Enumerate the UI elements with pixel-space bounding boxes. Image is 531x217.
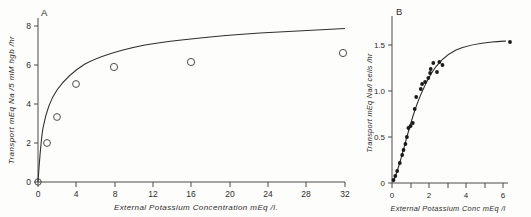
panel-a-xtick-8: 8 — [113, 189, 118, 199]
panel-b-point-16 — [426, 76, 430, 80]
panel-a-y-ticklabels: 0 2 4 6 8 — [26, 21, 31, 187]
panel-a-data-points — [35, 49, 347, 185]
panel-b-point-10 — [411, 121, 415, 125]
panel-b-point-23 — [508, 40, 512, 44]
panel-b-point-19 — [431, 61, 435, 65]
panel-b-point-7 — [405, 135, 409, 139]
panel-a-label: A — [41, 7, 48, 18]
panel-b-point-11 — [413, 107, 417, 111]
panel-b-point-13 — [419, 87, 423, 91]
panel-b-data-points — [392, 40, 512, 182]
panel-a-ytick-0: 0 — [26, 177, 31, 187]
panel-a-point-6 — [339, 49, 346, 56]
panel-b-point-18 — [429, 67, 433, 71]
panel-b-point-17 — [428, 71, 432, 75]
panel-a-ytick-2: 2 — [26, 138, 31, 148]
panel-b: 0 0.5 1.0 1.5 0 2 4 6 — [360, 0, 531, 217]
panel-a-plot: 0 2 4 6 8 0 4 8 12 — [0, 0, 360, 217]
panel-a-x-ticks — [38, 182, 345, 187]
panel-a-y-axis-title: Transport mEq Na /5 mM hgb /hr — [7, 36, 16, 164]
panel-a-y-ticks — [34, 26, 38, 182]
panel-b-fit-curve — [393, 41, 506, 182]
panel-b-xtick-6: 6 — [501, 191, 506, 200]
panel-a-x-axis-title: External Potassium Concentration mEq /l. — [114, 203, 278, 212]
panel-a-point-1 — [44, 140, 51, 147]
panel-b-label: B — [396, 6, 403, 17]
panel-b-point-4 — [400, 153, 404, 157]
panel-a-fit-curve — [38, 29, 345, 183]
panel-b-ytick-10: 1.0 — [374, 87, 386, 96]
panel-b-ytick-0: 0 — [381, 179, 386, 188]
panel-b-point-2 — [395, 169, 399, 173]
panel-a-xtick-12: 12 — [148, 189, 158, 199]
panel-b-point-0 — [392, 178, 396, 182]
panel-a-xtick-0: 0 — [36, 189, 41, 199]
panel-b-point-3 — [398, 161, 402, 165]
panel-b-y-ticks — [388, 45, 392, 183]
panel-a-x-ticklabels: 0 4 8 12 16 20 24 28 32 — [36, 189, 350, 199]
panel-b-x-axis-title: External Potassium Conc mEq /l — [391, 204, 506, 213]
panel-b-point-22 — [441, 63, 445, 67]
panel-a-ytick-4: 4 — [26, 99, 31, 109]
panel-a: 0 2 4 6 8 0 4 8 12 — [0, 0, 360, 217]
panel-b-point-21 — [438, 60, 442, 64]
panel-b-x-ticklabels: 0 2 4 6 — [390, 191, 506, 200]
panel-a-point-2 — [54, 114, 61, 121]
panel-a-xtick-16: 16 — [186, 189, 196, 199]
panel-a-ytick-8: 8 — [26, 21, 31, 31]
panel-b-x-ticks — [392, 183, 503, 188]
panel-a-xtick-32: 32 — [340, 189, 350, 199]
panel-a-xtick-28: 28 — [301, 189, 311, 199]
panel-b-point-20 — [435, 70, 439, 74]
panel-a-point-4 — [110, 63, 117, 70]
panel-b-y-axis-title: Transport mEq Na/l cells /hr — [365, 53, 374, 153]
panel-b-xtick-4: 4 — [464, 191, 469, 200]
panel-a-xtick-4: 4 — [74, 189, 79, 199]
panel-b-ytick-15: 1.5 — [374, 41, 386, 50]
panel-b-xtick-0: 0 — [390, 191, 395, 200]
panel-a-ytick-6: 6 — [26, 60, 31, 70]
panel-b-plot: 0 0.5 1.0 1.5 0 2 4 6 — [360, 0, 531, 217]
panel-b-point-15 — [423, 80, 427, 84]
panel-a-point-3 — [73, 81, 80, 88]
panel-b-y-ticklabels: 0 0.5 1.0 1.5 — [374, 41, 386, 188]
panel-a-xtick-20: 20 — [225, 189, 235, 199]
panel-a-point-5 — [187, 58, 194, 65]
panel-b-xtick-2: 2 — [427, 191, 432, 200]
panel-b-point-5 — [402, 148, 406, 152]
panel-b-point-6 — [404, 142, 408, 146]
panel-b-point-12 — [414, 95, 418, 99]
panel-b-point-1 — [393, 174, 397, 178]
panel-a-xtick-24: 24 — [263, 189, 273, 199]
panel-b-ytick-05: 0.5 — [374, 133, 386, 142]
figure-container: 0 2 4 6 8 0 4 8 12 — [0, 0, 531, 217]
